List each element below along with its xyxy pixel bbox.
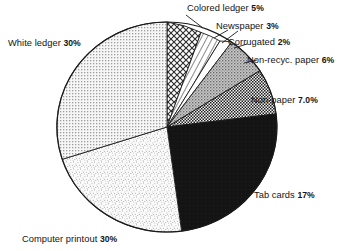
slice-label-name: Colored ledger [187,3,249,13]
slice-label-value: 17% [297,190,314,200]
slice-label-non-paper: Non-paper 7.0% [251,95,318,106]
slice-label-value: 30% [100,234,117,244]
slice-label-corrugated: Corrugated 2% [228,37,290,48]
slice-label-computer-printout: Computer printout 30% [22,234,117,245]
slice-label-name: Computer printout [22,234,97,244]
pie-slices [57,22,277,232]
slice-label-name: Tab cards [254,190,295,200]
slice-label-value: 6% [322,55,335,65]
slice-label-name: Non-recyc. paper [247,55,319,65]
slice-label-name: Non-paper [251,95,295,105]
slice-label-name: Newspaper [216,21,263,31]
slice-label-white-ledger: White ledger 30% [8,38,81,49]
slice-label-value: 3% [266,21,279,31]
slice-label-newspaper: Newspaper 3% [216,21,279,32]
slice-label-value: 7.0% [298,95,318,105]
slice-label-non-recyc-paper: Non-recyc. paper 6% [247,55,334,66]
leader-line-colored-ledger [186,15,203,28]
pie-chart: Colored ledger 5% Newspaper 3% Corrugate… [0,0,348,251]
slice-label-colored-ledger: Colored ledger 5% [187,3,264,14]
pie-slice-tab-cards[interactable] [167,114,277,231]
slice-label-value: 30% [63,38,80,48]
slice-label-tab-cards: Tab cards 17% [254,190,315,201]
slice-label-value: 5% [251,3,264,13]
slice-label-name: White ledger [8,38,61,48]
slice-label-value: 2% [278,37,291,47]
slice-label-name: Corrugated [228,37,275,47]
